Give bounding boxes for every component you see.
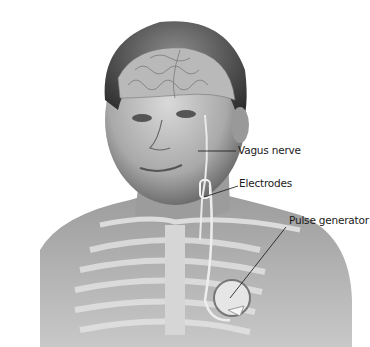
ear: [231, 107, 249, 143]
label-vagus-nerve: Vagus nerve: [238, 144, 301, 156]
left-eye: [132, 114, 152, 122]
label-electrodes: Electrodes: [239, 177, 292, 189]
right-eye: [176, 110, 196, 118]
anatomy-illustration: [0, 0, 370, 347]
sternum: [165, 225, 185, 335]
label-pulse-generator: Pulse generator: [289, 214, 369, 226]
